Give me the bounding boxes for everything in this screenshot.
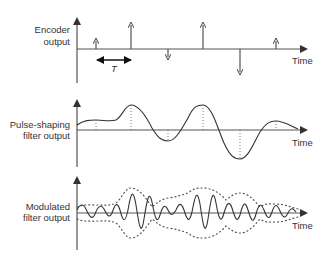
modulated-label-line2: filter output (23, 212, 70, 223)
encoder-label-line2: output (44, 36, 71, 47)
time-label: Time (292, 55, 313, 66)
upper-envelope (77, 188, 298, 209)
pulse-shaping-panel: Pulse-shaping filter output Time (10, 101, 313, 167)
modulated-label-line1: Modulated (26, 201, 70, 212)
pulse-shaped-waveform (77, 105, 298, 159)
pulse-shaping-label-line2: filter output (23, 130, 70, 141)
signal-diagram: Encoder output Time T Pulse-shaping filt… (0, 0, 326, 257)
modulated-panel: Modulated filter output Time (23, 178, 313, 250)
encoder-label-line1: Encoder (35, 24, 70, 35)
lower-envelope (77, 217, 298, 238)
period-label: T (111, 63, 118, 74)
modulated-waveform (77, 194, 296, 228)
time-label: Time (292, 137, 313, 148)
pulse-shaping-label-line1: Pulse-shaping (10, 119, 70, 130)
time-label: Time (292, 220, 313, 231)
encoder-panel: Encoder output Time T (35, 19, 313, 83)
